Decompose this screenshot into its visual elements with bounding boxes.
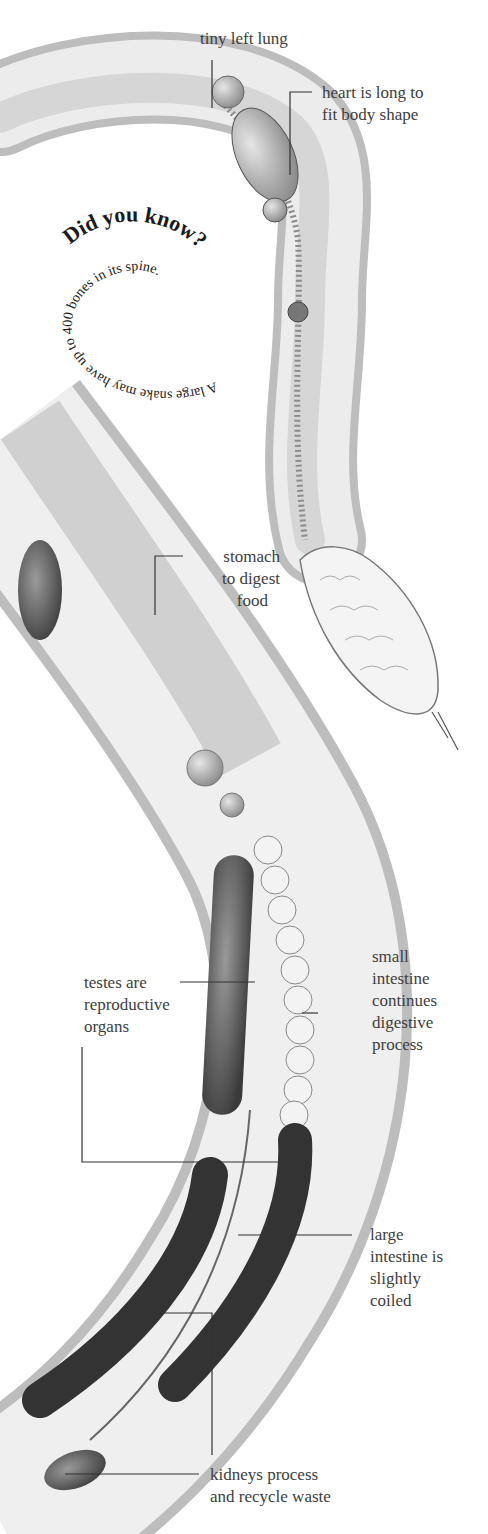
label-small-intestine: small intestine continues digestive proc… [372, 946, 437, 1056]
label-testes: testes are reproductive organs [84, 972, 170, 1038]
svg-text:A large snake may have up to 4: A large snake may have up to 400 bones i… [60, 258, 220, 404]
stomach-organ [18, 540, 62, 640]
label-heart-line2: fit body shape [322, 104, 424, 126]
label-small-intestine-line2: intestine [372, 968, 437, 990]
label-small-intestine-line5: process [372, 1034, 437, 1056]
label-small-intestine-line1: small [372, 946, 437, 968]
label-lung: tiny left lung [200, 28, 288, 50]
label-testes-line3: organs [84, 1016, 170, 1038]
label-stomach: stomach to digest food [190, 546, 280, 612]
label-large-intestine-line1: large [370, 1224, 443, 1246]
label-small-intestine-line3: continues [372, 990, 437, 1012]
label-heart-line1: heart is long to [322, 82, 424, 104]
label-stomach-line1: stomach [190, 546, 280, 568]
did-you-know-spiral: Did you know? A large snake may have up … [58, 201, 227, 403]
label-small-intestine-line4: digestive [372, 1012, 437, 1034]
label-kidneys: kidneys process and recycle waste [210, 1464, 331, 1508]
did-you-know-body: A large snake may have up to 400 bones i… [60, 258, 220, 404]
label-kidneys-line2: and recycle waste [210, 1486, 331, 1508]
label-stomach-line3: food [190, 590, 280, 612]
snake-head [300, 547, 458, 750]
svg-text:Did you know?: Did you know? [58, 201, 213, 252]
label-kidneys-line1: kidneys process [210, 1464, 331, 1486]
did-you-know-heading: Did you know? [58, 201, 213, 252]
label-large-intestine-line3: slightly [370, 1268, 443, 1290]
label-stomach-line2: to digest [190, 568, 280, 590]
label-large-intestine-line4: coiled [370, 1290, 443, 1312]
label-testes-line2: reproductive [84, 994, 170, 1016]
label-large-intestine: large intestine is slightly coiled [370, 1224, 443, 1312]
label-testes-line1: testes are [84, 972, 170, 994]
lung-organ [212, 76, 244, 108]
label-large-intestine-line2: intestine is [370, 1246, 443, 1268]
label-heart: heart is long to fit body shape [322, 82, 424, 126]
